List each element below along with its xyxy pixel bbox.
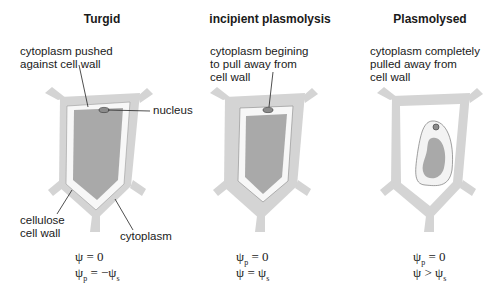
incipient-cell bbox=[210, 72, 318, 232]
title-turgid: Turgid bbox=[62, 12, 142, 26]
label-cytoplasm: cytoplasm bbox=[120, 230, 172, 243]
turgid-nucleus bbox=[99, 107, 109, 112]
turgid-cell bbox=[45, 65, 153, 232]
title-plasmolysed: Plasmolysed bbox=[380, 12, 480, 26]
description-incipient: cytoplasm begining to pull away from cel… bbox=[210, 45, 308, 84]
label-cellulose-cell-wall: cellulose cell wall bbox=[20, 214, 65, 240]
equation-turgid-2: ψp = −ψs bbox=[75, 265, 120, 286]
incipient-nucleus bbox=[263, 107, 273, 112]
description-turgid: cytoplasm pushed against cell wall bbox=[20, 45, 113, 71]
equation-incipient-2: ψ = ψs bbox=[236, 265, 269, 286]
description-plasmolysed: cytoplasm completely pulled away from ce… bbox=[370, 45, 480, 84]
label-nucleus: nucleus bbox=[153, 104, 193, 117]
plasmolysed-nucleus bbox=[433, 124, 439, 130]
title-incipient-plasmolysis: incipient plasmolysis bbox=[205, 12, 335, 26]
plasmolysed-cell bbox=[377, 87, 483, 232]
equation-plasmolysed-2: ψ > ψs bbox=[413, 265, 446, 286]
